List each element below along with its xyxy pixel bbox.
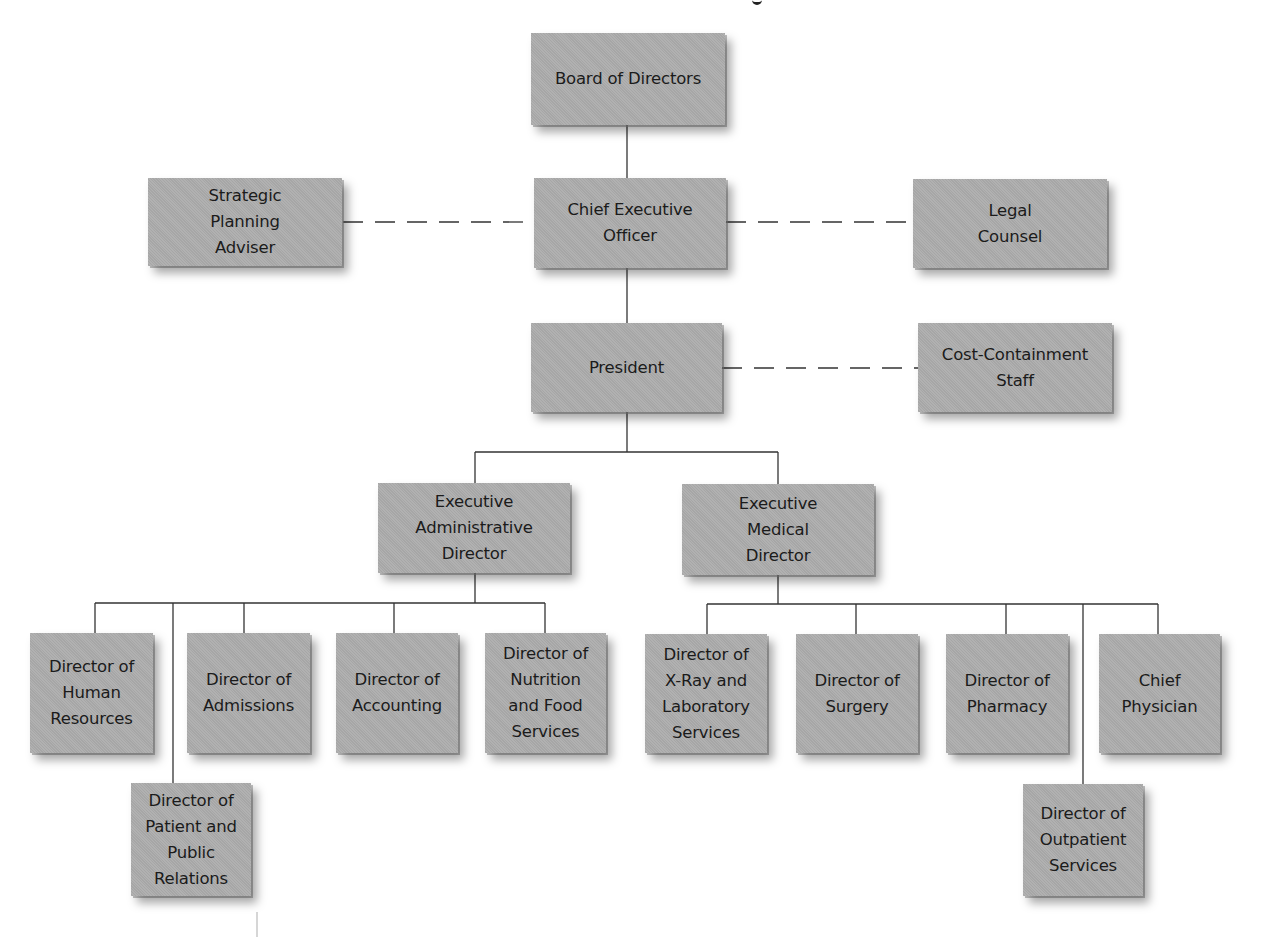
- node-label: Cost-Containment Staff: [942, 342, 1088, 394]
- node-legal-counsel: Legal Counsel: [913, 179, 1107, 268]
- node-label: Strategic Planning Adviser: [209, 183, 282, 261]
- node-director-outpatient-services: Director of Outpatient Services: [1023, 784, 1143, 896]
- node-executive-administrative-director: Executive Administrative Director: [378, 483, 570, 573]
- node-label: Director of Patient and Public Relations: [145, 788, 237, 892]
- node-label: Executive Medical Director: [739, 491, 818, 569]
- node-label: Director of Human Resources: [49, 654, 134, 732]
- node-chief-executive-officer: Chief Executive Officer: [534, 178, 726, 268]
- node-director-human-resources: Director of Human Resources: [30, 633, 153, 753]
- node-cost-containment-staff: Cost-Containment Staff: [918, 323, 1112, 412]
- node-chief-physician: Chief Physician: [1099, 634, 1220, 753]
- node-label: President: [589, 355, 664, 381]
- node-label: Director of Nutrition and Food Services: [503, 641, 588, 745]
- node-director-accounting: Director of Accounting: [336, 633, 458, 753]
- node-president: President: [531, 323, 722, 412]
- node-executive-medical-director: Executive Medical Director: [682, 484, 874, 575]
- node-label: Director of Outpatient Services: [1040, 801, 1127, 879]
- node-label: Legal Counsel: [978, 198, 1042, 250]
- node-label: Director of Pharmacy: [964, 668, 1049, 720]
- node-label: Executive Administrative Director: [415, 489, 532, 567]
- node-board-of-directors: Board of Directors: [531, 33, 725, 125]
- node-strategic-planning-adviser: Strategic Planning Adviser: [148, 178, 342, 266]
- node-label: Director of Surgery: [814, 668, 899, 720]
- node-label: Chief Physician: [1122, 668, 1198, 720]
- node-director-patient-public-relations: Director of Patient and Public Relations: [131, 783, 251, 896]
- node-director-nutrition-food-services: Director of Nutrition and Food Services: [485, 633, 606, 753]
- node-label: Director of Accounting: [352, 667, 442, 719]
- node-label: Director of X-Ray and Laboratory Service…: [662, 642, 750, 746]
- node-director-xray-laboratory: Director of X-Ray and Laboratory Service…: [645, 634, 767, 753]
- node-director-admissions: Director of Admissions: [187, 633, 310, 753]
- node-label: Director of Admissions: [203, 667, 294, 719]
- node-director-surgery: Director of Surgery: [796, 634, 918, 753]
- node-director-pharmacy: Director of Pharmacy: [946, 634, 1068, 753]
- node-label: Board of Directors: [555, 66, 701, 92]
- node-label: Chief Executive Officer: [567, 197, 692, 249]
